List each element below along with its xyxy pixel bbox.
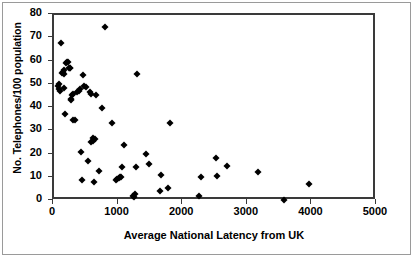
data-point xyxy=(145,160,152,167)
data-point xyxy=(213,172,220,179)
data-point xyxy=(91,179,98,186)
y-tick-label: 30 xyxy=(18,123,42,134)
x-tick-label: 0 xyxy=(29,206,75,217)
x-tick-mark xyxy=(310,199,311,204)
scatter-plot-figure: No. Telephones/100 population 0102030405… xyxy=(0,0,414,258)
data-points-layer xyxy=(54,15,373,197)
x-axis-title: Average National Latency from UK xyxy=(52,229,376,241)
data-point xyxy=(198,174,205,181)
plot-area xyxy=(52,13,375,199)
x-tick-label: 2000 xyxy=(158,206,204,217)
data-point xyxy=(80,72,87,79)
data-point xyxy=(61,111,68,118)
data-point xyxy=(224,163,231,170)
x-tick-label: 3000 xyxy=(223,206,269,217)
data-point xyxy=(121,141,128,148)
x-tick-mark xyxy=(246,199,247,204)
data-point xyxy=(196,193,203,200)
data-point xyxy=(84,158,91,165)
data-point xyxy=(166,119,173,126)
data-point xyxy=(78,149,85,156)
x-tick-mark xyxy=(117,199,118,204)
x-tick-mark xyxy=(181,199,182,204)
data-point xyxy=(213,155,220,162)
y-tick-label: 0 xyxy=(18,193,42,204)
data-point xyxy=(158,172,165,179)
data-point xyxy=(165,184,172,191)
y-tick-label: 20 xyxy=(18,147,42,158)
data-point xyxy=(255,169,262,176)
x-tick-mark xyxy=(52,199,53,204)
y-tick-label: 10 xyxy=(18,170,42,181)
data-point xyxy=(143,150,150,157)
data-point xyxy=(109,120,116,127)
y-tick-label: 50 xyxy=(18,77,42,88)
x-tick-mark xyxy=(375,199,376,204)
x-tick-label: 4000 xyxy=(287,206,333,217)
data-point xyxy=(78,176,85,183)
data-point xyxy=(92,92,99,99)
x-tick-label: 5000 xyxy=(352,206,398,217)
y-tick-label: 40 xyxy=(18,100,42,111)
data-point xyxy=(96,167,103,174)
data-point xyxy=(98,105,105,112)
data-point xyxy=(119,164,126,171)
y-tick-label: 60 xyxy=(18,54,42,65)
data-point xyxy=(58,39,65,46)
data-point xyxy=(156,187,163,194)
y-tick-label: 80 xyxy=(18,7,42,18)
data-point xyxy=(101,24,108,31)
data-point xyxy=(134,71,141,78)
data-point xyxy=(305,180,312,187)
x-tick-label: 1000 xyxy=(94,206,140,217)
y-tick-label: 70 xyxy=(18,30,42,41)
data-point xyxy=(132,163,139,170)
